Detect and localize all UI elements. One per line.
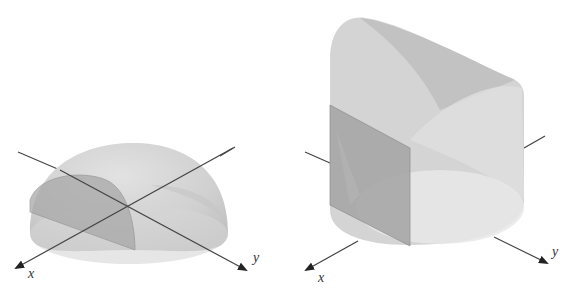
y-axis-label: y <box>251 250 260 265</box>
x-axis-label: x <box>27 266 35 281</box>
x-axis-label: x <box>317 270 325 285</box>
y-axis-label: y <box>550 244 559 259</box>
y-axis[interactable] <box>494 237 547 263</box>
cylinder-figure: x y <box>280 0 562 290</box>
y-axis-back-segment <box>305 152 330 163</box>
x-axis-back-segment <box>524 136 545 148</box>
hemisphere-svg: x y <box>0 0 280 290</box>
y-axis-back-segment <box>18 152 60 170</box>
hemisphere-figure: x y <box>0 0 280 290</box>
x-axis[interactable] <box>306 241 358 270</box>
cylinder-svg: x y <box>280 0 562 290</box>
